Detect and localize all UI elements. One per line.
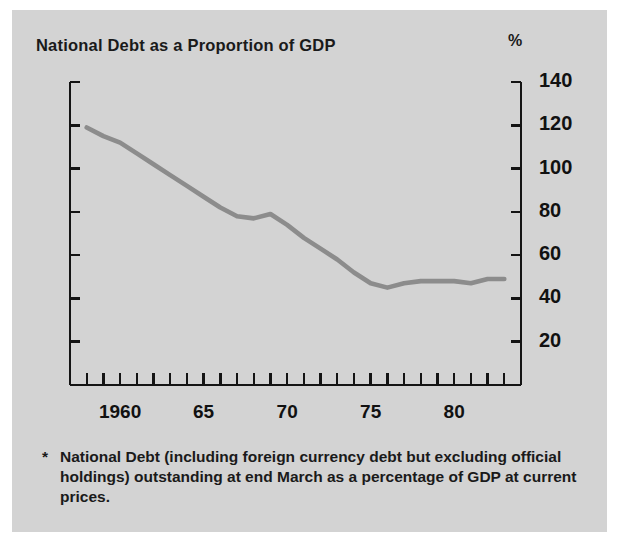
chart-figure: National Debt as a Proportion of GDP % 2… [12, 10, 607, 532]
x-tick-label-1960: 1960 [80, 401, 160, 423]
x-tick-label-80: 80 [414, 401, 494, 423]
x-tick-label-65: 65 [164, 401, 244, 423]
y-tick-label-40: 40 [539, 285, 561, 308]
x-tick-label-75: 75 [331, 401, 411, 423]
y-tick-label-120: 120 [539, 112, 572, 135]
footnote-text: National Debt (including foreign currenc… [60, 447, 587, 507]
y-tick-label-100: 100 [539, 156, 572, 179]
data-line-national-debt [87, 127, 505, 287]
chart-footnote: * National Debt (including foreign curre… [42, 447, 587, 507]
y-tick-label-20: 20 [539, 329, 561, 352]
y-tick-label-60: 60 [539, 242, 561, 265]
y-tick-label-80: 80 [539, 199, 561, 222]
chart-series [87, 127, 505, 287]
x-tick-label-70: 70 [247, 401, 327, 423]
y-tick-label-140: 140 [539, 69, 572, 92]
footnote-marker: * [42, 447, 48, 467]
